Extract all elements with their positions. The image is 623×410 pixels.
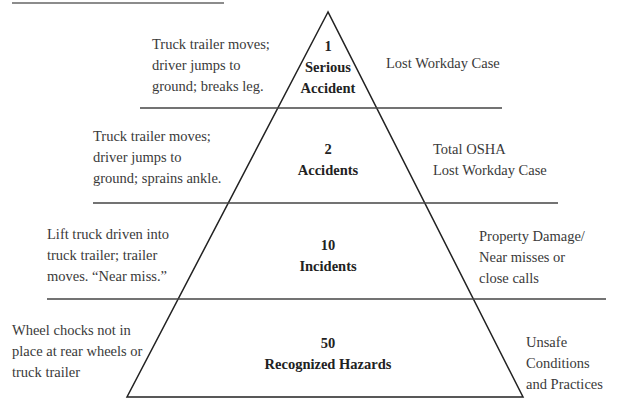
tier-3-example: Lift truck driven into truck trailer; tr… bbox=[47, 224, 169, 287]
tier-4-count: 50 bbox=[238, 333, 418, 354]
tier-1-category: Lost Workday Case bbox=[386, 53, 500, 74]
tier-1-example: Truck trailer moves; driver jumps to gro… bbox=[152, 34, 270, 97]
tier-3-label: 10 Incidents bbox=[258, 235, 398, 277]
tier-2-count: 2 bbox=[258, 139, 398, 160]
tier-1-count: 1 bbox=[278, 36, 378, 57]
tier-4-category: Unsafe Conditions and Practices bbox=[526, 332, 623, 395]
tier-4-example: Wheel chocks not in place at rear wheels… bbox=[12, 320, 142, 383]
tier-2-category: Total OSHA Lost Workday Case bbox=[433, 139, 547, 181]
tier-2-example: Truck trailer moves; driver jumps to gro… bbox=[93, 126, 221, 189]
tier-3-count: 10 bbox=[258, 235, 398, 256]
tier-1-label: 1 Serious Accident bbox=[278, 36, 378, 99]
tier-2-label: 2 Accidents bbox=[258, 139, 398, 181]
tier-4-label: 50 Recognized Hazards bbox=[238, 333, 418, 375]
tier-3-category: Property Damage/ Near misses or close ca… bbox=[479, 226, 585, 289]
